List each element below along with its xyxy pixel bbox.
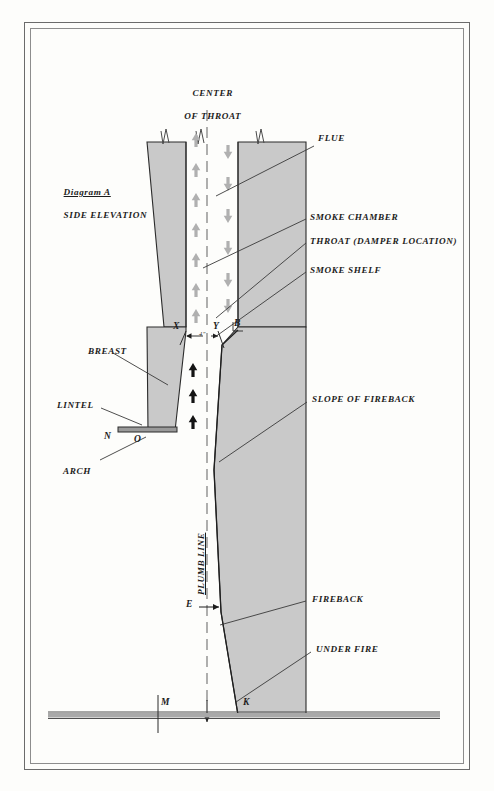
point-n-label: N [104, 431, 111, 443]
point-m-label: M [161, 697, 170, 709]
smoke-chamber-label: SMOKE CHAMBER [310, 212, 398, 224]
masonry-breast [147, 327, 186, 431]
center-of-throat-line2: OF THROAT [184, 111, 241, 121]
center-of-throat-label: CENTER OF THROAT [165, 76, 249, 134]
center-of-throat-line1: CENTER [193, 88, 233, 98]
throat-damper-label: THROAT (DAMPER LOCATION) [310, 236, 457, 248]
point-k-label: K [243, 697, 250, 709]
arch-label: ARCH [63, 466, 91, 478]
lintel-label: LINTEL [57, 400, 94, 412]
smoke-shelf-label: SMOKE SHELF [310, 265, 381, 277]
lintel-bar [118, 427, 177, 432]
point-o-label: O [134, 434, 141, 446]
figure-caption: Diagram A SIDE ELEVATION [52, 175, 147, 233]
figure-label: Diagram A [64, 187, 111, 197]
under-fire-label: UNDER FIRE [316, 644, 378, 656]
firebox-updraft-arrows [189, 363, 198, 429]
point-y-label: Y [213, 321, 219, 333]
fireback-label: FIREBACK [312, 594, 363, 606]
hearth-floor-band [48, 713, 440, 718]
breast-label: BREAST [88, 346, 127, 358]
leader-lintel [101, 408, 142, 425]
flue-label: FLUE [318, 133, 345, 145]
figure-subtitle: SIDE ELEVATION [64, 210, 148, 220]
throat-dimension-label: 4" [199, 330, 206, 338]
point-b-label: B [234, 318, 241, 330]
point-x-label: X [173, 321, 180, 333]
point-e-label: E [186, 599, 193, 611]
slope-of-fireback-label: SLOPE OF FIREBACK [312, 394, 415, 406]
throat-right-edge [218, 331, 224, 348]
diagram-page: CENTER OF THROAT FLUE SMOKE CHAMBER THRO… [0, 0, 494, 791]
cold-air-descending-arrows [224, 145, 233, 313]
masonry-left-upper-wall [147, 142, 186, 327]
smoke-rising-arrows [192, 133, 201, 323]
plumb-line-label: PLUMB LINE [196, 533, 208, 595]
masonry-right-upper-wall [238, 142, 306, 327]
